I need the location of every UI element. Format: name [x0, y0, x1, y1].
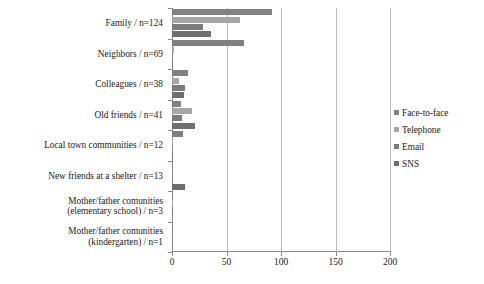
x-tick-label: 200 [383, 257, 397, 267]
legend-label: SNS [402, 159, 419, 169]
bar [172, 31, 211, 37]
category-tick-mark [168, 69, 172, 70]
bar-group [172, 8, 390, 39]
bar [172, 139, 173, 145]
legend-swatch-icon [394, 144, 399, 149]
bar-group [172, 161, 390, 192]
bar [172, 223, 173, 229]
category-label: Family / n=124 [0, 8, 168, 39]
bar-group [172, 100, 390, 131]
category-label: Mother/father comunities (elementary sch… [0, 191, 168, 222]
legend-item[interactable]: Telephone [394, 121, 482, 138]
category-label: Local town communities / n=12 [0, 130, 168, 161]
x-tick-mark [227, 252, 228, 256]
bar-group [172, 222, 390, 253]
legend-swatch-icon [394, 161, 399, 166]
plot-area [172, 8, 390, 252]
bar-group [172, 130, 390, 161]
bar [172, 153, 173, 159]
category-tick-mark [168, 252, 172, 253]
gridline [390, 8, 391, 252]
bar [172, 24, 203, 30]
bar [172, 78, 179, 84]
category-tick-mark [168, 191, 172, 192]
bar [172, 62, 173, 68]
legend-label: Telephone [402, 125, 441, 135]
bar [172, 207, 173, 213]
legend-label: Email [402, 142, 424, 152]
category-tick-mark [168, 39, 172, 40]
bar [172, 17, 240, 23]
category-tick-mark [168, 161, 172, 162]
bar [172, 9, 272, 15]
bar [172, 184, 185, 190]
x-tick-mark [336, 252, 337, 256]
bar [172, 92, 184, 98]
x-tick-mark [172, 252, 173, 256]
category-tick-mark [168, 222, 172, 223]
bar [172, 237, 173, 243]
category-label: Mother/father comunities (kindergarten) … [0, 222, 168, 253]
bar-group [172, 69, 390, 100]
bar [172, 192, 173, 198]
bar [172, 115, 182, 121]
x-tick-mark [390, 252, 391, 256]
legend-label: Face-to-face [402, 108, 448, 118]
bar [172, 108, 192, 114]
x-tick-label: 50 [222, 257, 232, 267]
x-tick-mark [281, 252, 282, 256]
legend-item[interactable]: Email [394, 138, 482, 155]
bar [172, 85, 185, 91]
bar [172, 162, 173, 168]
bar-group [172, 39, 390, 70]
category-label: New friends at a shelter / n=13 [0, 161, 168, 192]
category-label: Colleagues / n=38 [0, 69, 168, 100]
category-axis: Family / n=124Neighbors / n=69Colleagues… [0, 8, 168, 252]
bar [172, 123, 195, 129]
bar [172, 131, 183, 137]
legend-swatch-icon [394, 110, 399, 115]
x-tick-label: 0 [170, 257, 175, 267]
category-tick-mark [168, 130, 172, 131]
category-label: Old friends / n=41 [0, 100, 168, 131]
bar [172, 200, 173, 206]
bar [172, 40, 244, 46]
category-label: Neighbors / n=69 [0, 39, 168, 70]
category-tick-mark [168, 8, 172, 9]
category-tick-mark [168, 100, 172, 101]
bar [172, 47, 174, 53]
bar-group [172, 191, 390, 222]
legend-item[interactable]: SNS [394, 155, 482, 172]
legend-item[interactable]: Face-to-face [394, 104, 482, 121]
x-tick-label: 150 [328, 257, 342, 267]
legend-swatch-icon [394, 127, 399, 132]
bar [172, 101, 181, 107]
bar-chart: Family / n=124Neighbors / n=69Colleagues… [0, 0, 484, 284]
x-tick-label: 100 [274, 257, 288, 267]
bar [172, 70, 188, 76]
chart-legend: Face-to-faceTelephoneEmailSNS [394, 104, 482, 172]
